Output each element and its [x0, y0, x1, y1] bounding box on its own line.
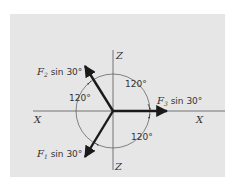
angle-arrow-icon: [88, 81, 91, 84]
force-f2-arrow: [85, 66, 113, 111]
force-f1-arrow: [85, 111, 113, 157]
force-diagram: X X Z Z F2 sin 30° F1 sin 30° F3 sin 30°…: [0, 0, 232, 186]
force-f3-label: F3 sin 30°: [156, 95, 202, 107]
angle-label-lower: 120°: [131, 132, 153, 142]
x-axis-label-right: X: [195, 114, 204, 125]
angle-arrow-icon: [149, 114, 150, 118]
angle-label-upper: 120°: [125, 79, 147, 89]
angle-label-left: 120°: [69, 93, 91, 103]
force-f1-label: F1 sin 30°: [36, 148, 82, 160]
force-f2-label: F2 sin 30°: [36, 66, 82, 78]
z-axis-label-bottom: Z: [114, 161, 123, 172]
angle-arrow-icon: [95, 143, 98, 145]
z-axis-label-top: Z: [115, 50, 124, 61]
x-axis-label-left: X: [33, 114, 42, 125]
